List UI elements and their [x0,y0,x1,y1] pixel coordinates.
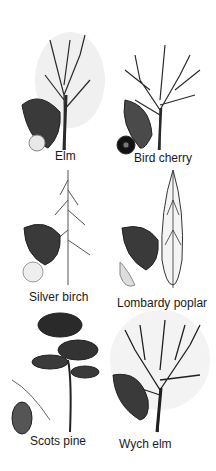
label-scots-pine: Scots pine [30,434,86,448]
elm-illustration [22,32,105,151]
label-silver-birch: Silver birch [29,290,88,304]
label-lombardy-poplar: Lombardy poplar [117,296,207,310]
label-elm: Elm [55,149,76,163]
label-wych-elm: Wych elm [119,437,172,451]
label-bird-cherry: Bird cherry [134,151,192,165]
bird-cherry-illustration [117,45,200,154]
lombardy-poplar-illustration [120,170,183,288]
tree-illustrations [0,0,216,471]
wych-elm-illustration [110,310,210,432]
scots-pine-illustration [12,313,99,434]
silver-birch-illustration [23,170,90,285]
